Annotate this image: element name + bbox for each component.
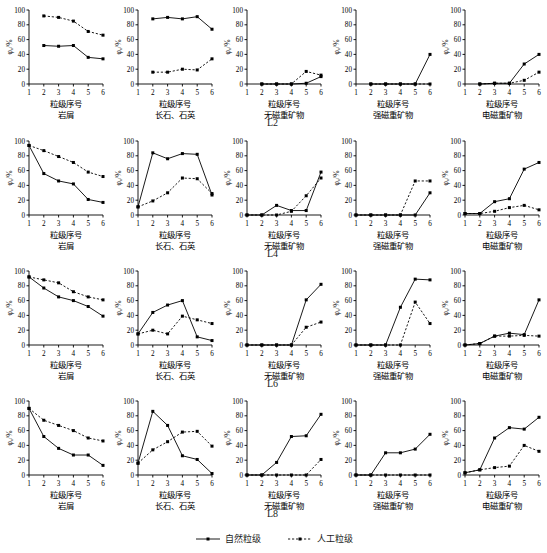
x-tick-label: 6 <box>537 480 541 488</box>
data-series <box>369 53 431 86</box>
data-point-marker <box>275 83 278 86</box>
data-point-marker <box>166 440 169 443</box>
y-tick-label: 100 <box>14 398 25 406</box>
panel-title: 强磁重矿物 <box>373 110 413 120</box>
line-dashed <box>465 205 539 213</box>
chart-panel-l8-3: 020406080100123456φₒ/%粒级序号无磁重矿物 <box>218 391 327 521</box>
data-point-marker <box>28 275 31 278</box>
line-dashed <box>465 445 539 472</box>
data-point-marker <box>478 342 481 345</box>
data-point-marker <box>87 305 90 308</box>
legend-swatch-solid <box>195 534 221 544</box>
y-tick-label: 0 <box>21 212 25 220</box>
data-point-marker <box>320 321 323 324</box>
data-series <box>246 413 323 477</box>
panel-title: 长石、石英 <box>155 110 196 120</box>
x-axis-label: 粒级序号 <box>486 490 518 500</box>
data-point-marker <box>523 63 526 66</box>
y-tick-label: 20 <box>454 327 462 335</box>
y-tick-label: 60 <box>127 167 135 175</box>
x-tick-label: 5 <box>195 350 199 358</box>
y-tick-label: 0 <box>21 81 25 89</box>
data-point-marker <box>399 83 402 86</box>
x-axis-label: 粒级序号 <box>486 360 518 370</box>
y-tick-label: 100 <box>14 268 25 276</box>
line-dashed <box>247 322 321 345</box>
x-tick-label: 6 <box>101 350 105 358</box>
y-tick-label: 100 <box>232 7 243 15</box>
x-axis-label: 粒级序号 <box>159 99 191 109</box>
data-series <box>246 321 323 347</box>
chart-panel-l6-2: 020406080100123456φₒ/%粒级序号长石、石英 <box>109 261 218 391</box>
axes: 020406080100123456 <box>123 268 214 358</box>
y-tick-label: 40 <box>18 182 26 190</box>
data-point-marker <box>384 451 387 454</box>
x-tick-label: 3 <box>275 220 279 228</box>
data-point-marker <box>72 161 75 164</box>
data-point-marker <box>246 214 249 217</box>
y-axis-label: φₒ/% <box>5 170 14 186</box>
data-point-marker <box>166 16 169 19</box>
data-point-marker <box>72 299 75 302</box>
y-tick-label: 20 <box>345 327 353 335</box>
data-point-marker <box>42 419 45 422</box>
y-tick-label: 100 <box>232 138 243 146</box>
x-axis-label: 粒级序号 <box>50 490 82 500</box>
panel-row-l8: 020406080100123456φₒ/%粒级序号岩屑020406080100… <box>0 391 547 521</box>
x-tick-label: 5 <box>195 220 199 228</box>
data-point-marker <box>211 445 214 448</box>
chart-panel-l4-2: 020406080100123456φₒ/%粒级序号长石、石英 <box>109 131 218 261</box>
data-point-marker <box>399 474 402 477</box>
data-point-marker <box>151 151 154 154</box>
data-point-marker <box>57 16 60 19</box>
y-tick-label: 40 <box>127 442 135 450</box>
line-dashed <box>138 431 212 463</box>
x-tick-label: 3 <box>384 89 388 97</box>
x-tick-label: 5 <box>522 350 526 358</box>
x-axis-label: 粒级序号 <box>159 230 191 240</box>
data-point-marker <box>151 329 154 332</box>
y-tick-label: 40 <box>454 182 462 190</box>
data-point-marker <box>290 83 293 86</box>
data-series <box>246 171 323 217</box>
y-axis-label: φₒ/% <box>5 300 14 316</box>
y-axis-label: φₒ/% <box>5 430 14 446</box>
x-tick-label: 5 <box>413 220 417 228</box>
y-tick-label: 20 <box>127 327 135 335</box>
x-tick-label: 6 <box>210 89 214 97</box>
data-point-marker <box>290 435 293 438</box>
x-tick-label: 5 <box>195 89 199 97</box>
data-series <box>246 283 323 347</box>
line-dashed <box>29 145 103 176</box>
x-axis-label: 粒级序号 <box>50 230 82 240</box>
data-point-marker <box>211 192 214 195</box>
data-point-marker <box>28 144 31 147</box>
y-tick-label: 40 <box>18 312 26 320</box>
data-point-marker <box>414 474 417 477</box>
data-series <box>151 57 213 73</box>
data-point-marker <box>305 474 308 477</box>
y-tick-label: 60 <box>18 167 26 175</box>
line-solid <box>356 434 430 475</box>
x-tick-label: 5 <box>413 89 417 97</box>
data-point-marker <box>196 153 199 156</box>
line-solid <box>138 153 212 207</box>
data-point-marker <box>72 454 75 457</box>
x-tick-label: 4 <box>181 220 185 228</box>
y-tick-label: 0 <box>21 472 25 480</box>
y-tick-label: 40 <box>345 51 353 59</box>
y-tick-label: 60 <box>454 36 462 44</box>
x-tick-label: 1 <box>354 350 358 358</box>
x-tick-label: 3 <box>57 220 61 228</box>
x-axis-label: 粒级序号 <box>377 99 409 109</box>
y-tick-label: 100 <box>341 7 352 15</box>
data-point-marker <box>181 315 184 318</box>
data-point-marker <box>384 214 387 217</box>
y-tick-label: 60 <box>18 427 26 435</box>
line-solid <box>247 414 321 475</box>
axes: 020406080100123456 <box>14 7 105 97</box>
data-point-marker <box>320 413 323 416</box>
x-tick-label: 2 <box>369 480 373 488</box>
y-axis-label: φₒ/% <box>332 39 341 55</box>
chart-panel-l2-1: 020406080100123456φₒ/%粒级序号岩屑 <box>0 0 109 130</box>
